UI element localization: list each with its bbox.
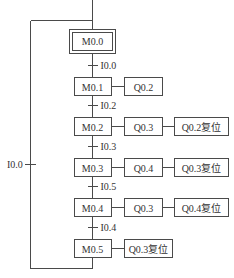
action-label: Q0.4复位 xyxy=(182,202,222,214)
action-label: Q0.4 xyxy=(134,163,154,174)
transition-label: I0.2 xyxy=(101,100,117,111)
step-label: M0.1 xyxy=(82,82,103,93)
initial-step: M0.0 xyxy=(70,30,116,54)
steps-layer: I0.0M0.1Q0.2I0.2M0.2Q0.3Q0.2复位I0.3M0.3Q0… xyxy=(74,60,229,258)
step-label: M0.4 xyxy=(82,203,103,214)
action-label: Q0.3复位 xyxy=(182,162,222,174)
step-label: M0.3 xyxy=(82,163,103,174)
transition-label: I0.0 xyxy=(101,60,117,71)
transition-label: I0.5 xyxy=(101,181,117,192)
sfc-diagram: I0.0 M0.0 I0.0M0.1Q0.2I0.2M0.2Q0.3Q0.2复位… xyxy=(0,0,234,278)
return-transition-label: I0.0 xyxy=(7,159,23,170)
initial-step-label: M0.0 xyxy=(82,36,103,47)
step-label: M0.5 xyxy=(82,244,103,255)
action-label: Q0.2复位 xyxy=(182,121,222,133)
transition-label: I0.4 xyxy=(101,222,117,233)
action-label: Q0.3复位 xyxy=(129,243,169,255)
action-label: Q0.3 xyxy=(134,122,154,133)
action-label: Q0.3 xyxy=(134,203,154,214)
transition-label: I0.3 xyxy=(101,141,117,152)
action-label: Q0.2 xyxy=(134,82,154,93)
step-label: M0.2 xyxy=(82,122,103,133)
